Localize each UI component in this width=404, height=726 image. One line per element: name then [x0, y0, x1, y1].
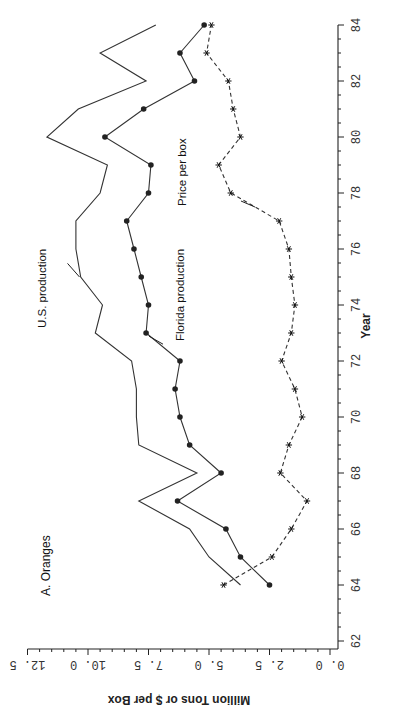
florida-marker: [146, 190, 152, 196]
year-tick-label: 70: [350, 410, 364, 424]
florida-production-line: [105, 25, 270, 585]
chart-title: A. Oranges: [39, 535, 53, 596]
florida-marker: [223, 526, 229, 532]
year-tick-label: 82: [350, 74, 364, 88]
price-marker: [215, 162, 221, 168]
florida-marker: [267, 582, 273, 588]
price-marker: [299, 414, 305, 420]
florida-marker: [102, 134, 108, 140]
florida-marker: [177, 414, 183, 420]
price-marker: [269, 554, 275, 560]
year-tick-label: 72: [350, 354, 364, 368]
year-tick-label: 68: [350, 466, 364, 480]
price-per-box-label: Price per box: [176, 138, 188, 206]
florida-marker: [177, 358, 183, 364]
florida-marker: [172, 386, 178, 392]
value-tick-label: 7. 5: [134, 657, 163, 671]
price-marker: [288, 526, 294, 532]
chart-stage: 0. 02. 55. 07. 510. 012. 562646668707274…: [0, 0, 404, 726]
year-tick-label: 76: [350, 242, 364, 256]
florida-leader-line: [149, 336, 163, 344]
x-axis-label: Year: [359, 313, 373, 339]
florida-marker: [218, 470, 224, 476]
florida-marker: [192, 78, 198, 84]
axes: 0. 02. 55. 07. 510. 012. 562646668707274…: [9, 18, 364, 671]
florida-marker: [175, 498, 181, 504]
year-tick-label: 84: [350, 18, 364, 32]
florida-production-label: Florida production: [174, 249, 186, 341]
value-tick-label: 10. 0: [70, 657, 106, 671]
price-marker: [304, 498, 310, 504]
us-leader-line: [68, 263, 80, 277]
year-tick-label: 74: [350, 298, 364, 312]
price-marker: [286, 442, 292, 448]
florida-marker: [201, 22, 207, 28]
price-leader-line: [241, 201, 255, 207]
value-tick-label: 12. 5: [9, 657, 45, 671]
value-tick-label: 2. 5: [255, 657, 284, 671]
florida-marker: [124, 218, 130, 224]
line-chart: 0. 02. 55. 07. 510. 012. 562646668707274…: [0, 0, 404, 726]
florida-marker: [146, 302, 152, 308]
value-tick-label: 5. 0: [195, 657, 224, 671]
price-marker: [288, 330, 294, 336]
year-tick-label: 66: [350, 522, 364, 536]
year-tick-label: 64: [350, 578, 364, 592]
value-tick-label: 0. 0: [316, 657, 345, 671]
annotations: A. Oranges Year Million Tons or $ per Bo…: [36, 138, 373, 707]
florida-marker: [238, 554, 244, 560]
florida-marker: [141, 106, 147, 112]
florida-marker: [138, 274, 144, 280]
florida-marker: [143, 330, 149, 336]
us-production-label: U.S. production: [36, 249, 48, 328]
florida-marker: [177, 50, 183, 56]
price-marker: [203, 50, 209, 56]
y-axis-label: Million Tons or $ per Box: [107, 693, 250, 707]
florida-marker: [148, 162, 154, 168]
price-marker: [278, 358, 284, 364]
price-marker: [228, 190, 234, 196]
year-tick-label: 80: [350, 130, 364, 144]
florida-marker: [187, 442, 193, 448]
year-tick-label: 62: [350, 634, 364, 648]
florida-marker: [131, 246, 137, 252]
year-tick-label: 78: [350, 186, 364, 200]
